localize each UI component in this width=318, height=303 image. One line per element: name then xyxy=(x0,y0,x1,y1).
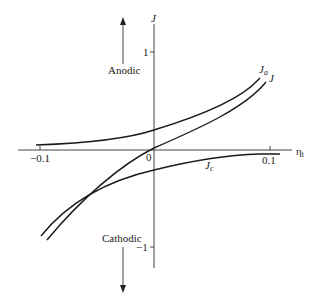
curve-j xyxy=(47,82,266,240)
curve-jc-label: Jc xyxy=(205,159,214,173)
x-tick-label-zero: 0 xyxy=(146,151,152,163)
x-axis-label-sub: t xyxy=(302,150,305,159)
current-overpotential-chart: −0.1 0 0.1 1 −1 J ηt Anodic Cathodic Ja … xyxy=(0,0,318,303)
anodic-label: Anodic xyxy=(108,64,141,76)
x-axis-label: ηt xyxy=(296,145,305,159)
cathodic-label: Cathodic xyxy=(102,232,142,244)
arrow-down-icon xyxy=(120,285,126,293)
y-axis-label: J xyxy=(151,12,157,24)
x-tick-label-neg: −0.1 xyxy=(30,152,50,164)
x-tick-label-pos: 0.1 xyxy=(262,154,276,166)
arrow-up-icon xyxy=(120,17,126,25)
curve-j-label: J xyxy=(269,72,275,84)
chart-canvas: −0.1 0 0.1 1 −1 J ηt Anodic Cathodic Ja … xyxy=(0,0,318,303)
curve-jc-label-sub: c xyxy=(210,164,214,173)
curve-jc xyxy=(41,154,280,236)
y-tick-label-pos: 1 xyxy=(143,46,149,58)
curve-ja-label-sub: a xyxy=(264,68,268,77)
curve-ja xyxy=(36,78,260,145)
curve-ja-label: Ja xyxy=(259,63,268,77)
